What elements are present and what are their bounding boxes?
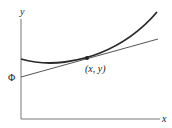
intercept-label: Φ [8,72,15,83]
y-axis-label: y [19,6,25,17]
tangent-diagram: y x (x, y) Φ [0,0,172,128]
tangent-point [85,56,89,60]
x-axis-label: x [161,113,167,124]
point-label: (x, y) [85,63,106,75]
convex-curve [21,12,157,63]
